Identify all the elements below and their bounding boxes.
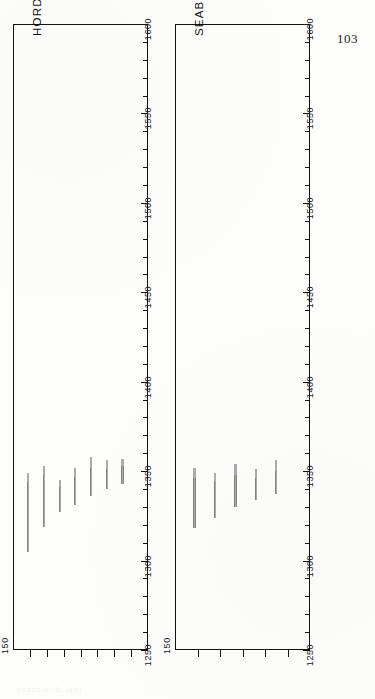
bleed-through-ghost-text: Seaborough Hall [16,681,365,695]
value-axis-tick-label: 1300 [143,554,153,576]
value-axis-minor-tick [305,596,310,597]
value-axis: 12501300135014001450150015501600 [147,24,148,650]
value-axis-minor-tick [143,96,148,97]
page-number: 103 [337,31,358,47]
value-axis-tick-label: 1450 [143,286,153,308]
chart-title: SEABOROUGH HALL [193,0,205,36]
value-axis-minor-tick [143,149,148,150]
category-axis-label: 150 [0,637,10,654]
value-axis-minor-tick [143,364,148,365]
value-axis-minor-tick [305,221,310,222]
value-axis-minor-tick [143,525,148,526]
value-axis-minor-tick [143,310,148,311]
plot-frame [175,24,310,650]
value-axis-minor-tick [143,257,148,258]
value-axis-minor-tick [305,274,310,275]
value-axis-tick-label: 1600 [143,18,153,40]
value-axis-minor-tick [143,417,148,418]
category-axis-label: 150 [162,637,172,654]
value-axis-minor-tick [305,400,310,401]
value-axis-minor-tick [143,543,148,544]
category-axis-tick [30,650,31,657]
value-axis-minor-tick [305,417,310,418]
value-axis-tick-label: 1350 [143,465,153,487]
value-axis-minor-tick [143,400,148,401]
category-axis-tick [265,650,266,657]
value-axis-minor-tick [305,42,310,43]
value-axis-minor-tick [305,96,310,97]
value-axis-minor-tick [143,60,148,61]
value-axis-minor-tick [305,489,310,490]
value-axis-tick-label: 1300 [305,554,315,576]
chart-panel-seaborough-hall: 12501300135014001450150015501600 150 SEA… [175,24,310,650]
value-axis-minor-tick [143,131,148,132]
plot-frame [13,24,148,650]
value-axis-tick-label: 1400 [305,375,315,397]
value-axis-minor-tick [305,525,310,526]
value-axis-minor-tick [143,328,148,329]
value-axis-minor-tick [143,489,148,490]
value-axis-minor-tick [305,310,310,311]
value-axis-minor-tick [305,346,310,347]
value-axis-minor-tick [143,185,148,186]
value-axis-minor-tick [305,543,310,544]
category-axis-tick [47,650,48,657]
value-axis-minor-tick [143,78,148,79]
value-axis-minor-tick [143,632,148,633]
value-axis-minor-tick [305,257,310,258]
value-axis-minor-tick [305,632,310,633]
category-axis-tick [243,650,244,657]
value-axis-minor-tick [305,435,310,436]
value-axis-tick-label: 1500 [305,197,315,219]
value-axis-tick-label: 1550 [305,107,315,129]
value-axis-minor-tick [305,185,310,186]
value-axis-minor-tick [143,239,148,240]
value-axis-tick-label: 1250 [143,644,153,666]
value-axis-tick-label: 1550 [143,107,153,129]
value-axis-minor-tick [143,453,148,454]
value-axis-minor-tick [143,614,148,615]
category-axis-tick [198,650,199,657]
value-axis-minor-tick [305,149,310,150]
value-axis-minor-tick [305,614,310,615]
value-axis-minor-tick [143,578,148,579]
value-axis-minor-tick [305,167,310,168]
category-axis-tick [64,650,65,657]
category-axis-tick [81,650,82,657]
value-axis-minor-tick [305,239,310,240]
value-axis-tick-label: 1450 [305,286,315,308]
value-axis-minor-tick [305,60,310,61]
value-axis-tick-label: 1400 [143,375,153,397]
value-axis-minor-tick [143,274,148,275]
value-axis-tick-label: 1600 [305,18,315,40]
category-axis-tick [131,650,132,657]
category-axis-tick [97,650,98,657]
scanned-page: 103 12501300135014001450150015501600 150… [0,0,375,699]
value-axis-minor-tick [143,346,148,347]
value-axis-minor-tick [305,507,310,508]
value-axis-minor-tick [143,507,148,508]
value-axis-minor-tick [305,578,310,579]
value-axis-minor-tick [305,328,310,329]
value-axis-minor-tick [305,78,310,79]
value-axis-tick-label: 1500 [143,197,153,219]
category-axis-tick [288,650,289,657]
value-axis-minor-tick [143,221,148,222]
chart-panel-hordon-on-the-hill: 12501300135014001450150015501600 150 HOR… [13,24,148,650]
chart-title: HORDON ON THE HILL [31,0,43,36]
value-axis-minor-tick [143,435,148,436]
value-axis-minor-tick [143,167,148,168]
category-axis-tick [220,650,221,657]
value-axis-minor-tick [143,596,148,597]
value-axis-minor-tick [143,42,148,43]
value-axis: 12501300135014001450150015501600 [309,24,310,650]
value-axis-minor-tick [305,131,310,132]
value-axis-tick-label: 1350 [305,465,315,487]
value-axis-minor-tick [305,364,310,365]
value-axis-tick-label: 1250 [305,644,315,666]
category-axis-tick [114,650,115,657]
value-axis-minor-tick [305,453,310,454]
